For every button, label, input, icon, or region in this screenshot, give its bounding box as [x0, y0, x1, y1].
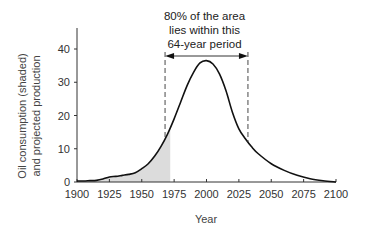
x-tick-label: 1950 — [130, 188, 154, 200]
y-tick-label: 30 — [58, 76, 70, 88]
x-tick-label: 2075 — [291, 188, 315, 200]
x-tick-label: 1900 — [65, 188, 89, 200]
y-tick-label: 20 — [58, 110, 70, 122]
oil-production-chart: 1900192519501975200020252050207521000102… — [0, 0, 368, 232]
y-axis-title-line-2: and projected production — [30, 55, 42, 176]
y-tick-label: 10 — [58, 143, 70, 155]
y-axis-title-line-1: Oil consumption (shaded) — [16, 53, 28, 178]
axes: 1900192519501975200020252050207521000102… — [58, 28, 348, 200]
production-curve — [77, 61, 336, 182]
x-tick-label: 2025 — [227, 188, 251, 200]
x-tick-label: 2050 — [259, 188, 283, 200]
annotation-text-line: 64-year period — [167, 38, 241, 50]
arrowhead-right-icon — [239, 53, 248, 59]
y-tick-label: 40 — [58, 43, 70, 55]
y-tick-label: 0 — [64, 176, 70, 188]
x-tick-label: 1975 — [162, 188, 186, 200]
x-tick-label: 2000 — [194, 188, 218, 200]
annotation-text-line: lies within this — [169, 24, 240, 36]
x-tick-label: 2100 — [324, 188, 348, 200]
annotation-text-line: 80% of the area — [164, 10, 246, 22]
x-tick-label: 1925 — [97, 188, 121, 200]
x-axis-title: Year — [195, 213, 218, 225]
production-curve-line — [77, 61, 336, 182]
arrowhead-left-icon — [165, 53, 174, 59]
